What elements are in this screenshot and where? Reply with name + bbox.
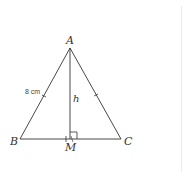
- label-b: B: [9, 135, 18, 148]
- triangle-diagram: A B C M h 8 cm: [0, 0, 187, 172]
- label-height-h: h: [73, 93, 79, 104]
- label-side-ab-length: 8 cm: [25, 88, 40, 95]
- label-m: M: [64, 141, 77, 154]
- right-angle-marker: [70, 132, 77, 139]
- label-a: A: [65, 34, 74, 47]
- label-c: C: [124, 135, 133, 148]
- page-edge-divider: [181, 6, 182, 172]
